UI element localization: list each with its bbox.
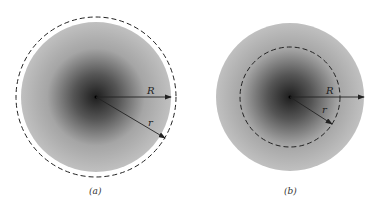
caption-b: (b) — [284, 186, 297, 196]
panel-b: R r (b) — [216, 23, 364, 196]
label-R-a: R — [146, 85, 155, 96]
figure: R r (a) R r (b) — [0, 0, 374, 208]
label-R-b: R — [325, 85, 334, 96]
caption-a: (a) — [89, 186, 102, 196]
panel-a: R r (a) — [16, 17, 176, 196]
